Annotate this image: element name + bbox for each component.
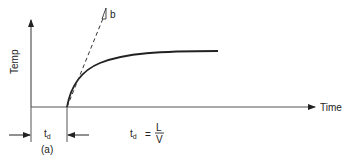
delay-equation: td = L V [130,122,164,145]
tangent-label: b [110,9,116,20]
dead-time-diagram: Temp Time b td (a) td = L V [0,0,352,166]
right-angle-marker [102,8,106,19]
svg-text:td: td [130,128,137,140]
delay-label: td [44,128,51,140]
panel-label: (a) [41,144,53,155]
response-curve [67,51,218,107]
svg-text:V: V [156,134,163,145]
svg-text:L: L [156,122,162,133]
tangent-line [67,16,104,107]
y-axis-label: Temp [9,49,20,74]
svg-text:=: = [145,129,151,140]
x-axis-label: Time [320,102,342,113]
